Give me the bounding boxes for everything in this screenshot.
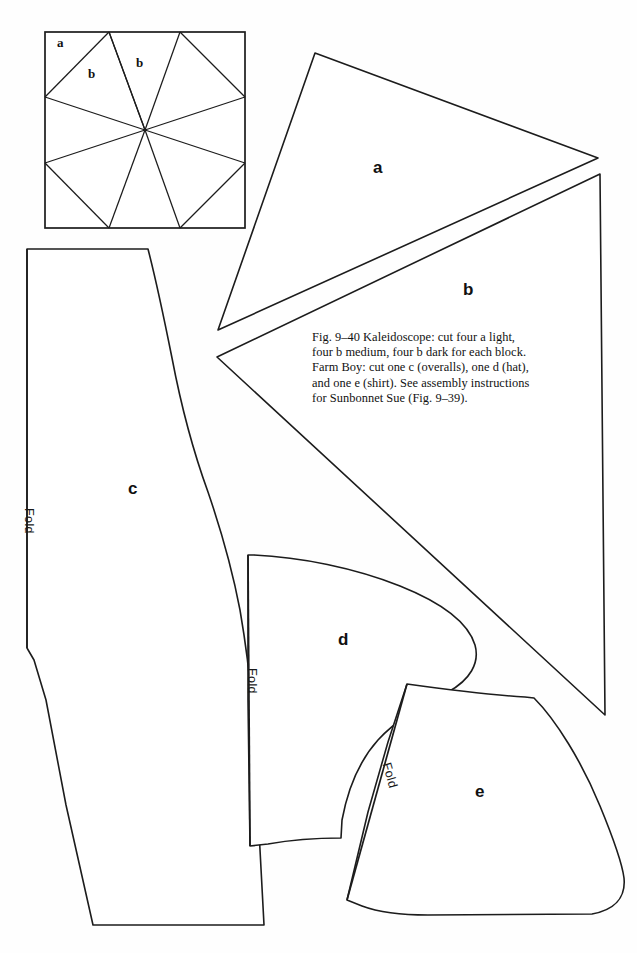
fold-label-d: Fold: [245, 668, 259, 694]
figure-page: a b b a b c d e Fold Fold Fold Fig. 9–40…: [0, 0, 637, 953]
piece-label-c: c: [128, 479, 137, 499]
block-label-a: a: [57, 35, 64, 51]
pattern-drawing: [0, 0, 637, 953]
kaleidoscope-block-diagram: [45, 32, 245, 228]
piece-c-outline: [27, 249, 264, 925]
block-label-b-dark: b: [136, 55, 143, 71]
piece-label-d: d: [338, 630, 348, 650]
piece-label-a: a: [373, 158, 382, 178]
piece-label-b: b: [463, 280, 473, 300]
figure-caption: Fig. 9–40 Kaleidoscope: cut four a light…: [312, 330, 530, 406]
piece-label-e: e: [475, 782, 484, 802]
block-label-b-medium: b: [88, 66, 95, 82]
fold-label-c: Fold: [22, 508, 36, 534]
